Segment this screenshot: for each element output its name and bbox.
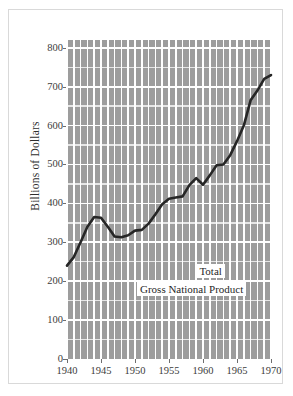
x-tick-label: 1945 [91, 366, 112, 377]
y-tick-label: 300 [19, 237, 63, 248]
figure-frame: Billions of Dollars 01002003004005006007… [8, 9, 283, 384]
y-tick-label: 100 [19, 315, 63, 326]
figure: Billions of Dollars 01002003004005006007… [0, 0, 293, 396]
y-tick-label: 600 [19, 121, 63, 132]
y-axis-ticklabels: 0100200300400500600700800 [15, 40, 63, 359]
x-tick-label: 1955 [159, 366, 180, 377]
chart-annotation: Total Gross National Product [175, 261, 246, 297]
y-tick-label: 800 [19, 43, 63, 54]
x-tick-label: 1960 [193, 366, 214, 377]
y-tick-label: 200 [19, 276, 63, 287]
x-tick-mark [101, 359, 102, 363]
series-line-gnp [67, 40, 271, 359]
x-tick-mark [67, 359, 68, 363]
y-tick-label: 400 [19, 198, 63, 209]
x-tick-mark [135, 359, 136, 363]
x-tick-label: 1965 [227, 366, 248, 377]
x-axis-ticklabels: 1940194519501955196019651970 [67, 366, 271, 382]
x-tick-mark [271, 359, 272, 363]
x-tick-mark [237, 359, 238, 363]
y-tick-label: 0 [19, 354, 63, 365]
x-tick-label: 1950 [125, 366, 146, 377]
y-tick-label: 700 [19, 82, 63, 93]
y-tick-label: 500 [19, 159, 63, 170]
x-tick-label: 1940 [57, 366, 78, 377]
x-tick-mark [169, 359, 170, 363]
plot-area: Total Gross National Product [67, 40, 271, 359]
x-tick-label: 1970 [261, 366, 282, 377]
annotation-line-total: Total [196, 264, 224, 278]
annotation-line-gnp: Gross National Product [137, 282, 246, 296]
x-tick-mark [203, 359, 204, 363]
